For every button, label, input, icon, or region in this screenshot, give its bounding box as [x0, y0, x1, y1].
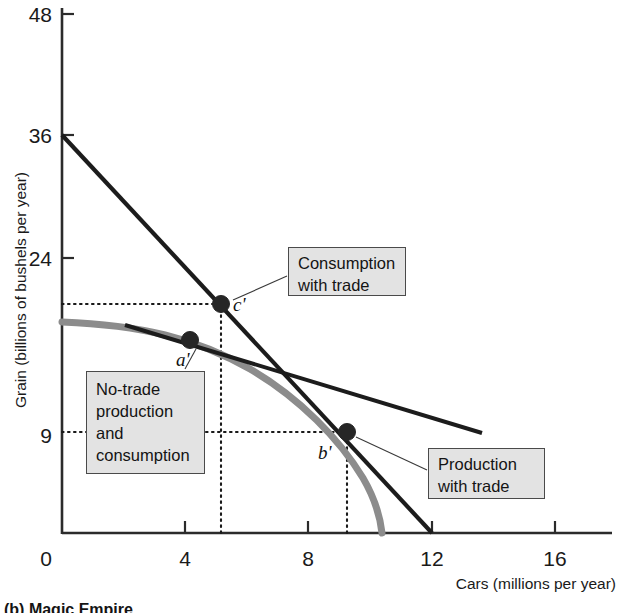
ppf-trade-figure: 48 36 24 9 0 4 8 12 16 Cars (millions pe… — [0, 0, 619, 613]
y-ticklabel-36: 36 — [29, 124, 52, 147]
callout-production-with-trade: Production with trade — [428, 448, 545, 499]
point-c-prime — [213, 296, 230, 313]
callout-no-trade-production-and-consumption: No-trade production and consumption — [86, 371, 205, 474]
x-ticklabel-4: 4 — [179, 547, 191, 570]
y-ticklabel-24: 24 — [29, 247, 53, 270]
callout-production-line2: with trade — [438, 476, 536, 498]
x-axis-title: Cars (millions per year) — [456, 575, 616, 592]
point-a-prime — [182, 332, 199, 349]
chart-canvas: 48 36 24 9 0 4 8 12 16 Cars (millions pe… — [0, 0, 619, 613]
point-label-c-prime: c' — [233, 294, 246, 315]
callout-consumption-line2: with trade — [298, 275, 397, 297]
point-label-b-prime: b' — [318, 442, 333, 463]
x-ticklabel-12: 12 — [420, 547, 443, 570]
callout-notrade-line2: production — [96, 401, 196, 423]
point-b-prime — [339, 424, 356, 441]
callout-notrade-line4: consumption — [96, 445, 196, 467]
y-ticklabel-9: 9 — [40, 424, 52, 447]
callout-notrade-line1: No-trade — [96, 379, 196, 401]
point-label-a-prime: a' — [176, 349, 191, 370]
x-ticklabel-8: 8 — [302, 547, 314, 570]
y-axis-title: Grain (billions of bushels per year) — [12, 172, 29, 408]
callout-notrade-line3: and — [96, 423, 196, 445]
y-ticklabel-48: 48 — [29, 3, 52, 26]
callout-consumption-line1: Consumption — [298, 253, 397, 275]
figure-caption: (b) Magic Empire — [4, 601, 304, 613]
callout-consumption-with-trade: Consumption with trade — [288, 247, 406, 296]
callout-production-line1: Production — [438, 454, 536, 476]
y-ticklabel-0: 0 — [40, 547, 52, 570]
x-ticklabel-16: 16 — [543, 547, 566, 570]
